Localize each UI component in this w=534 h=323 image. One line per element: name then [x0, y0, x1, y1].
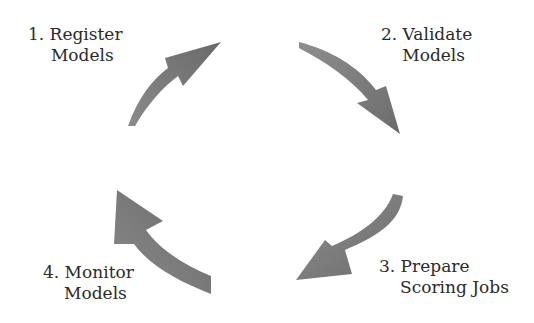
step-1-title: 1. Register [28, 24, 123, 45]
step-3-title: 3. Prepare [379, 256, 509, 277]
arrow-step-1 [128, 42, 221, 126]
step-4-title: 4. Monitor [43, 262, 134, 283]
step-4-label: 4. Monitor Models [43, 262, 134, 304]
step-2-label: 2. Validate Models [381, 24, 472, 66]
step-1-subtitle: Models [28, 45, 123, 66]
step-2-subtitle: Models [381, 45, 472, 66]
step-3-subtitle: Scoring Jobs [379, 277, 509, 298]
step-4-subtitle: Models [43, 283, 134, 304]
step-3-label: 3. Prepare Scoring Jobs [379, 256, 509, 298]
step-2-title: 2. Validate [381, 24, 472, 45]
step-1-label: 1. Register Models [28, 24, 123, 66]
